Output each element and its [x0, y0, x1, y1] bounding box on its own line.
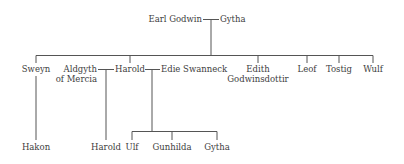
person-aldgyth-of-mercia: Aldgyth of Mercia — [56, 64, 97, 84]
person-wulf: Wulf — [363, 64, 383, 74]
person-ulf: Ulf — [125, 142, 138, 152]
person-edith-line1: Edith — [227, 64, 288, 74]
person-edie-swanneck: Edie Swanneck — [161, 64, 227, 74]
person-edith-line2: Godwinsdottir — [227, 74, 288, 84]
person-gytha-root: Gytha — [220, 14, 246, 24]
person-leof: Leof — [298, 64, 317, 74]
person-hakon: Hakon — [22, 142, 50, 152]
person-harold: Harold — [115, 64, 145, 74]
person-gunhilda: Gunhilda — [152, 142, 191, 152]
person-harold-son: Harold — [91, 142, 121, 152]
person-edith-godwinsdottir: Edith Godwinsdottir — [227, 64, 288, 84]
person-tostig: Tostig — [326, 64, 352, 74]
person-gytha-daughter: Gytha — [204, 142, 230, 152]
person-sweyn: Sweyn — [22, 64, 50, 74]
person-earl-godwin: Earl Godwin — [148, 14, 202, 24]
person-aldgyth-line1: Aldgyth — [56, 64, 97, 74]
person-aldgyth-line2: of Mercia — [56, 74, 97, 84]
